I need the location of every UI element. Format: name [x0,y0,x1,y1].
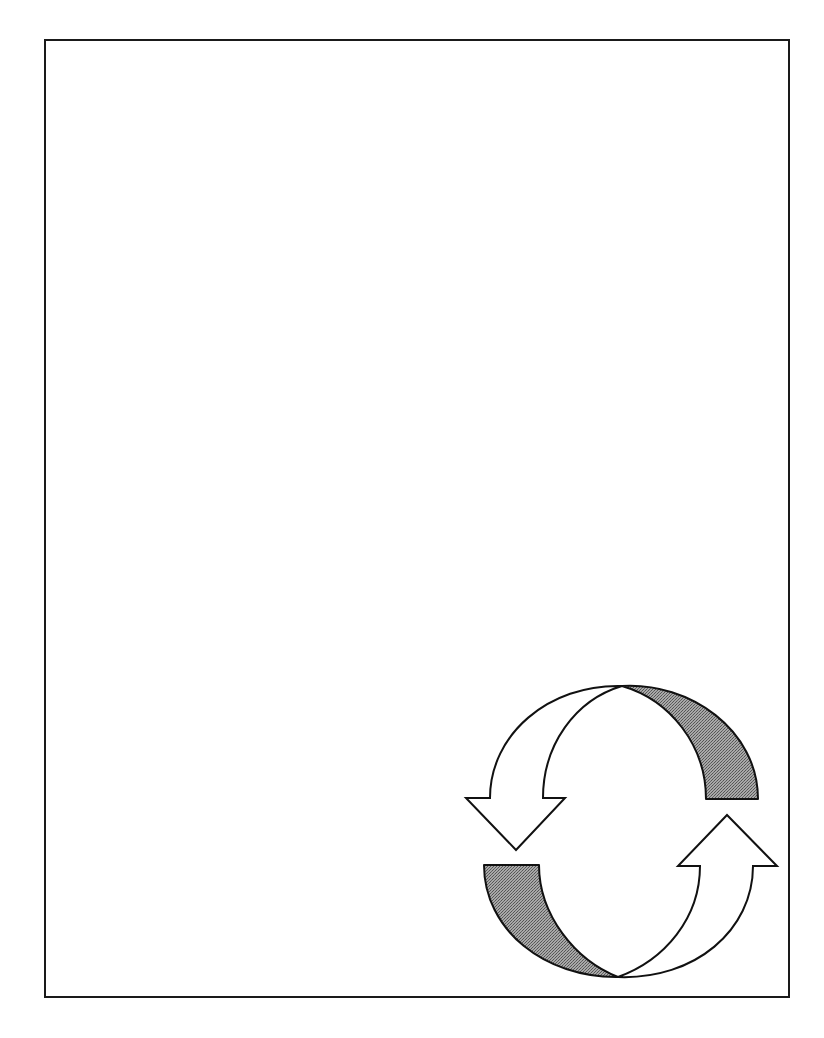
page-frame [44,39,790,998]
